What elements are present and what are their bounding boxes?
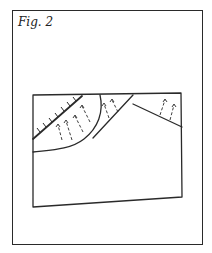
main-diagonal-line <box>33 96 82 139</box>
figure-drawing <box>0 0 212 253</box>
direction-arrows <box>56 99 176 140</box>
crossing-line-right <box>133 104 182 127</box>
